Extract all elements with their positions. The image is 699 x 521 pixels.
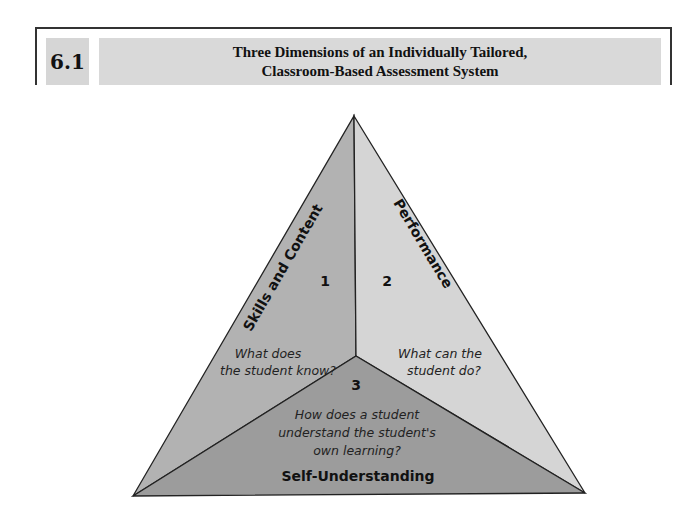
question-1-line2: the student know? (220, 363, 336, 378)
pyramid-diagram: Skills and Content Performance Self-Unde… (0, 0, 699, 521)
face-label-self-understanding: Self-Understanding (281, 468, 434, 484)
question-3-line1: How does a student (295, 407, 421, 422)
face-number-3: 3 (351, 377, 361, 393)
face-number-2: 2 (382, 273, 392, 289)
question-2-line1: What can the (398, 346, 482, 361)
question-3-line2: understand the student's (278, 425, 436, 440)
face-number-1: 1 (320, 273, 330, 289)
question-3-line3: own learning? (313, 443, 401, 458)
question-2-line2: student do? (407, 363, 481, 378)
question-1-line1: What does (235, 346, 302, 361)
